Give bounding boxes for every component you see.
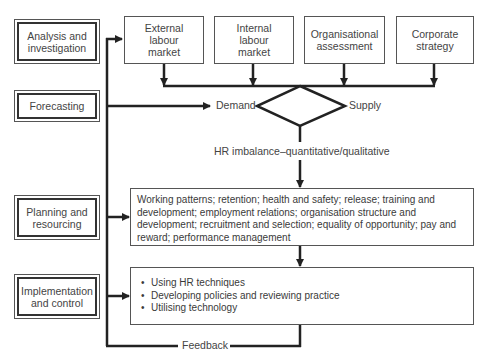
decision-diamond: [257, 86, 345, 126]
feedback-label: Feedback: [182, 339, 228, 351]
input-internal-labour-market: Internal labour market: [214, 16, 294, 64]
planning-activities-text: Working patterns; retention; health and …: [137, 194, 456, 243]
demand-label: Demand: [216, 99, 256, 111]
stage-analysis-label: Analysis and investigation: [17, 22, 97, 61]
stage-forecasting-label: Forecasting: [17, 93, 97, 119]
input-organisational-label: Organisational assessment: [307, 28, 383, 52]
hr-imbalance-label: HR imbalance–quantitative/qualitative: [214, 145, 390, 157]
input-corporate-strategy: Corporate strategy: [396, 16, 474, 64]
input-internal-label: Internal labour market: [224, 22, 284, 58]
stage-implementation-label: Implementation and control: [17, 277, 97, 316]
input-organisational-assessment: Organisational assessment: [304, 16, 385, 64]
supply-label: Supply: [349, 99, 381, 111]
input-external-labour-market: External labour market: [124, 16, 204, 64]
implementation-item: Developing policies and reviewing practi…: [151, 290, 467, 303]
stage-planning-label: Planning and resourcing: [17, 198, 97, 237]
stage-implementation: Implementation and control: [14, 274, 100, 319]
stage-planning: Planning and resourcing: [14, 195, 100, 240]
implementation-activities-box: Using HR techniques Developing policies …: [130, 267, 474, 325]
stage-analysis: Analysis and investigation: [14, 19, 100, 64]
stage-forecasting: Forecasting: [14, 90, 100, 122]
input-external-label: External labour market: [134, 22, 194, 58]
implementation-item: Using HR techniques: [151, 277, 467, 290]
implementation-item: Utilising technology: [151, 302, 467, 315]
implementation-list: Using HR techniques Developing policies …: [137, 277, 467, 315]
planning-activities-box: Working patterns; retention; health and …: [130, 188, 474, 246]
input-corporate-label: Corporate strategy: [405, 28, 465, 52]
